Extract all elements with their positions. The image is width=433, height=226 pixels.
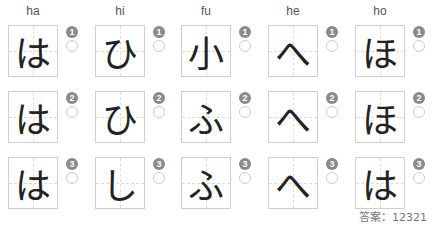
option-number-badge: 3 xyxy=(239,158,251,170)
handwritten-char: へ xyxy=(269,92,317,142)
char-box: は xyxy=(355,157,405,209)
char-box: し xyxy=(95,157,145,209)
handwritten-char: は xyxy=(9,26,57,76)
handwritten-char: ふ xyxy=(182,92,230,142)
answer-key: 答案：12321 xyxy=(359,208,427,224)
char-box: は xyxy=(8,91,58,143)
char-box: 小 xyxy=(181,25,231,77)
option-number-badge: 1 xyxy=(239,26,251,38)
option-radio[interactable] xyxy=(66,40,78,52)
handwritten-char: し xyxy=(96,158,144,208)
option-number-badge: 1 xyxy=(326,26,338,38)
handwritten-char: 小 xyxy=(182,26,230,76)
option-number-badge: 1 xyxy=(153,26,165,38)
column-header-ho: ho xyxy=(355,4,405,18)
option-number-badge: 2 xyxy=(153,92,165,104)
option-number-badge: 3 xyxy=(413,158,425,170)
char-box: ほ xyxy=(355,91,405,143)
option-radio[interactable] xyxy=(239,106,251,118)
option-radio[interactable] xyxy=(153,40,165,52)
option-radio[interactable] xyxy=(413,106,425,118)
option-radio[interactable] xyxy=(326,40,338,52)
column-header-he: he xyxy=(268,4,318,18)
char-box: は xyxy=(8,157,58,209)
option-number-badge: 2 xyxy=(66,92,78,104)
option-radio[interactable] xyxy=(153,106,165,118)
char-box: ほ xyxy=(355,25,405,77)
handwritten-char: へ xyxy=(269,158,317,208)
handwritten-char: は xyxy=(9,158,57,208)
option-number-badge: 3 xyxy=(66,158,78,170)
option-number-badge: 2 xyxy=(239,92,251,104)
handwritten-char: ほ xyxy=(356,26,404,76)
option-radio[interactable] xyxy=(66,172,78,184)
handwritten-char: ふ xyxy=(182,158,230,208)
option-radio[interactable] xyxy=(239,40,251,52)
char-box: ひ xyxy=(95,91,145,143)
handwritten-char: ひ xyxy=(96,92,144,142)
char-box: ふ xyxy=(181,157,231,209)
column-header-hi: hi xyxy=(95,4,145,18)
option-radio[interactable] xyxy=(413,40,425,52)
handwritten-char: ほ xyxy=(356,92,404,142)
option-radio[interactable] xyxy=(326,106,338,118)
option-number-badge: 3 xyxy=(326,158,338,170)
option-number-badge: 2 xyxy=(413,92,425,104)
char-box: ひ xyxy=(95,25,145,77)
option-number-badge: 1 xyxy=(66,26,78,38)
option-radio[interactable] xyxy=(66,106,78,118)
handwritten-char: へ xyxy=(269,26,317,76)
handwritten-char: は xyxy=(356,158,404,208)
option-number-badge: 1 xyxy=(413,26,425,38)
hiragana-quiz: haは1は2は3hiひ1ひ2し3fu小1ふ2ふ3heへ1へ2へ3hoほ1ほ2は3… xyxy=(0,0,433,226)
option-number-badge: 3 xyxy=(153,158,165,170)
char-box: は xyxy=(8,25,58,77)
handwritten-char: は xyxy=(9,92,57,142)
char-box: へ xyxy=(268,91,318,143)
option-radio[interactable] xyxy=(239,172,251,184)
handwritten-char: ひ xyxy=(96,26,144,76)
char-box: ふ xyxy=(181,91,231,143)
char-box: へ xyxy=(268,25,318,77)
option-number-badge: 2 xyxy=(326,92,338,104)
column-header-ha: ha xyxy=(8,4,58,18)
column-header-fu: fu xyxy=(181,4,231,18)
option-radio[interactable] xyxy=(413,172,425,184)
char-box: へ xyxy=(268,157,318,209)
option-radio[interactable] xyxy=(153,172,165,184)
option-radio[interactable] xyxy=(326,172,338,184)
